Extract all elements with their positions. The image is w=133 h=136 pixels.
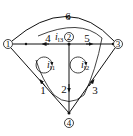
node-1: 1	[4, 39, 13, 49]
junction-dot-1	[25, 43, 27, 45]
loop-i13-label: il3	[55, 31, 64, 44]
junction-dot-4	[68, 112, 71, 115]
branch-2-label: 2	[61, 83, 67, 95]
circuit-graph-diagram: 1 2 3 4 6 4 5 2 1 3 il3 il1 il2	[0, 0, 133, 136]
branch-3-label: 3	[92, 84, 98, 96]
branch-5-label: 5	[84, 32, 90, 44]
junction-dot-2	[68, 43, 71, 46]
branch-1-label: 1	[40, 84, 46, 96]
node-4-label: 4	[67, 118, 72, 128]
graph-svg: 1 2 3 4 6 4 5 2 1 3 il3 il1 il2	[0, 0, 133, 136]
node-2-label: 2	[67, 32, 72, 42]
branch-3-line	[69, 48, 115, 113]
node-4: 4	[65, 118, 74, 128]
branch-4-label: 4	[45, 32, 51, 44]
node-3-label: 3	[116, 39, 121, 49]
node-3: 3	[114, 39, 123, 49]
node-2: 2	[65, 32, 74, 42]
node-1-label: 1	[6, 39, 11, 49]
branch-6-label: 6	[65, 10, 71, 22]
